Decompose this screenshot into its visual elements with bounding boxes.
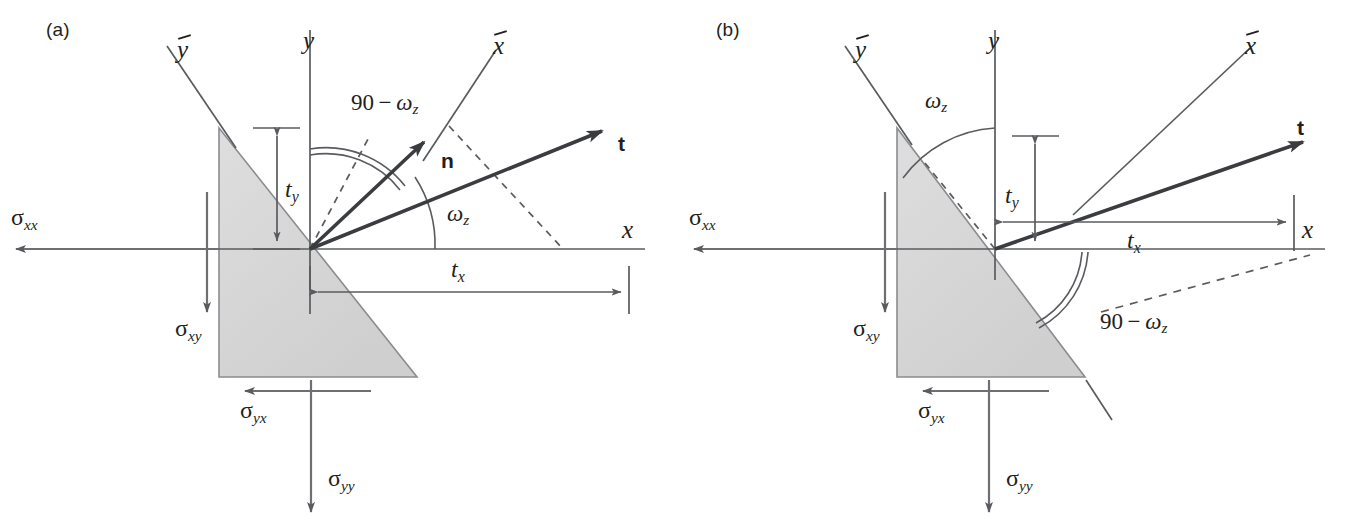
panel-a-angle-90-minus-omega: 90 − ωz [351, 91, 418, 116]
figure-root: (a) y x y x 90 − ωz ωz n t ty tx σxx σxy… [0, 0, 1361, 530]
panel-b-axis-x-label: x [1302, 217, 1313, 242]
panel-a-ty-label: ty [285, 177, 299, 205]
panel-b-ty-label: ty [1005, 183, 1019, 211]
panel-b-sigma-yy-label: σyy [1006, 466, 1033, 493]
stress-wedge-b [897, 128, 1085, 377]
panel-b-vector-t-label: t [1297, 117, 1304, 138]
panel-b-angle-omega: ωz [925, 89, 947, 114]
angle-arc-90-minus-omega-b [1036, 252, 1082, 323]
panel-a-vector-n-label: n [441, 150, 454, 171]
panel-b-sigma-xx-label: σxx [689, 205, 716, 232]
panel-a-tag: (a) [46, 20, 70, 39]
panel-a-axis-x-bar-label: x [493, 33, 504, 58]
panel-a-axis-y-bar-label: y [177, 37, 188, 62]
panel-a-tx-label: tx [451, 257, 465, 285]
panel-a-vector-t-label: t [618, 133, 625, 154]
panel-a-sigma-xx-label: σxx [11, 205, 38, 232]
panel-a-angle-omega: ωz [447, 202, 469, 227]
stress-wedge-a [219, 128, 417, 377]
panel-a-sigma-xy-label: σxy [175, 316, 202, 343]
panel-a-axis-y-label: y [303, 28, 314, 53]
dashed-plane-b [1101, 255, 1310, 312]
panel-b-tx-label: tx [1127, 228, 1141, 256]
panel-b-axis-y-bar-label: y [855, 37, 866, 62]
vector-n-a [310, 142, 424, 249]
angle-arc-90-minus-omega-a [310, 154, 400, 190]
panel-b-axis-x-bar-label: x [1245, 33, 1256, 58]
diagram-canvas [0, 0, 1361, 530]
panel-a-axis-x-label: x [622, 217, 633, 242]
panel-b-graphics [694, 30, 1325, 512]
panel-a-sigma-yx-label: σyx [240, 398, 267, 425]
panel-a-graphics [16, 30, 645, 512]
panel-b-sigma-xy-label: σxy [853, 316, 880, 343]
plane-tick-b [1086, 380, 1112, 420]
panel-b-angle-90-minus-omega: 90 − ωz [1100, 310, 1167, 335]
vector-t-a [310, 131, 602, 249]
vector-t-b [995, 142, 1303, 249]
panel-a-sigma-yy-label: σyy [328, 466, 355, 493]
panel-b-tag: (b) [716, 20, 740, 39]
dashed-normal-a [310, 139, 368, 249]
panel-b-axis-y-label: y [988, 28, 999, 53]
axis-x-bar-a [423, 50, 496, 161]
panel-b-sigma-yx-label: σyx [918, 398, 945, 425]
angle-arc-omega-a [415, 177, 435, 249]
